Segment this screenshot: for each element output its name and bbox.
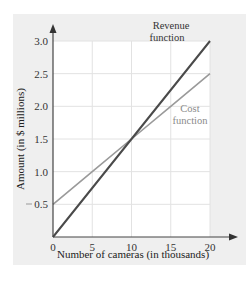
y-tick-label: 2.0 [34, 100, 48, 112]
revenue-annotation-line2: function [150, 32, 186, 43]
revenue-annotation-line1: Revenue [153, 20, 190, 31]
y-tick-label: 0.5 [34, 198, 48, 210]
y-tick-label: 1.5 [34, 133, 48, 145]
chart: 05101520 0.51.01.52.02.53.0 Number of ca… [0, 0, 252, 286]
y-tick-label: 2.5 [34, 68, 48, 80]
y-tick-label: 3.0 [34, 35, 48, 47]
y-axis-label: Amount (in $ millions) [14, 88, 27, 190]
cost-annotation-line1: Cost [180, 103, 199, 114]
x-tick-label: 0 [50, 241, 56, 253]
y-tick-label: 1.0 [34, 166, 48, 178]
cost-annotation-line2: function [173, 115, 209, 126]
x-axis-label: Number of cameras (in thousands) [57, 248, 209, 261]
